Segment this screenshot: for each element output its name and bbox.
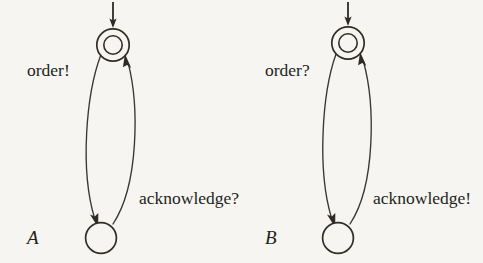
automaton-a-group — [86, 2, 135, 253]
b-transition-label-acknowledge: acknowledge! — [373, 190, 471, 208]
a-state-bottom[interactable] — [86, 223, 117, 254]
automata-figure: order! acknowledge? A order? acknowledge… — [0, 0, 483, 263]
b-edge-order — [323, 54, 336, 228]
a-edge-order — [86, 55, 100, 227]
b-state-bottom[interactable] — [323, 223, 354, 254]
b-state-top[interactable] — [332, 27, 364, 59]
a-automaton-name: A — [27, 228, 39, 247]
diagram-canvas — [0, 0, 483, 263]
a-transition-label-order: order! — [27, 62, 70, 80]
a-transition-label-acknowledge: acknowledge? — [139, 190, 239, 208]
b-automaton-name: B — [265, 228, 277, 247]
a-state-top[interactable] — [97, 29, 129, 61]
b-initial-arrow — [344, 2, 351, 26]
automaton-b-group — [323, 2, 372, 253]
a-initial-arrow — [109, 2, 116, 28]
a-edge-acknowledge — [113, 54, 135, 224]
b-edge-acknowledge — [350, 52, 371, 224]
b-transition-label-order: order? — [265, 62, 310, 80]
